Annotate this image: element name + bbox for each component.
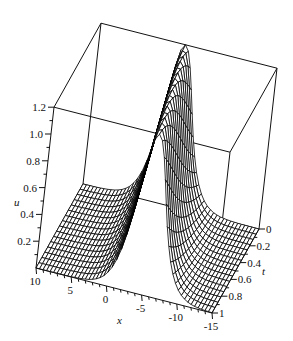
x-tick <box>36 268 37 274</box>
x-tick-label: 10 <box>30 275 42 287</box>
t-tick-label: 0.4 <box>247 257 261 269</box>
x-tick <box>156 299 157 302</box>
x-tick-label: 5 <box>67 284 73 296</box>
t-tick-label: 0.2 <box>257 240 271 252</box>
x-tick <box>50 272 51 275</box>
box-edge <box>54 23 101 107</box>
surface-plot: 0.20.40.60.81.01.2 1050-5-10-15 00.20.40… <box>0 0 293 341</box>
x-tick <box>198 309 199 312</box>
x-tick <box>43 270 44 273</box>
surface-mesh <box>36 45 259 313</box>
u-tick-label: 0.6 <box>23 182 37 194</box>
x-tick <box>212 313 213 319</box>
x-tick <box>92 282 93 285</box>
surface-patch <box>164 157 167 183</box>
x-tick <box>142 295 143 301</box>
t-tick-label: 0 <box>266 223 272 235</box>
box-edge <box>54 107 230 152</box>
x-axis-label: x <box>116 314 122 326</box>
box-edge <box>259 68 277 229</box>
u-tick-label: 0.2 <box>17 235 31 247</box>
x-tick <box>64 275 65 278</box>
x-tick <box>149 297 150 300</box>
box-edge <box>230 68 277 152</box>
x-tick <box>106 286 107 292</box>
x-tick <box>113 288 114 291</box>
x-tick-label: -5 <box>136 302 146 314</box>
x-tick <box>170 302 171 305</box>
t-axis-label: t <box>262 265 266 277</box>
x-tick <box>184 306 185 309</box>
u-tick-label: 1.0 <box>29 128 43 140</box>
x-tick <box>99 284 100 287</box>
u-tick-label: 0.4 <box>20 208 34 220</box>
u-tick-label: 1.2 <box>32 101 46 113</box>
t-tick-label: 1 <box>219 307 225 319</box>
x-tick <box>85 281 86 284</box>
x-tick-label: -15 <box>204 320 219 332</box>
x-tick <box>71 277 72 283</box>
x-tick <box>177 304 178 310</box>
x-tick <box>205 311 206 314</box>
box-edge <box>83 23 101 184</box>
x-tick <box>163 300 164 303</box>
x-tick <box>191 308 192 311</box>
x-tick <box>128 291 129 294</box>
x-tick-label: 0 <box>103 293 109 305</box>
u-axis: 0.20.40.60.81.01.2 <box>17 101 54 268</box>
x-tick <box>57 273 58 276</box>
x-tick <box>78 279 79 282</box>
t-tick-label: 0.8 <box>228 290 242 302</box>
x-tick-label: -10 <box>168 311 183 323</box>
t-tick-label: 0.6 <box>238 273 252 285</box>
x-tick <box>120 290 121 293</box>
u-axis-label: u <box>14 196 20 208</box>
u-tick-label: 0.8 <box>26 155 40 167</box>
x-tick <box>135 293 136 296</box>
